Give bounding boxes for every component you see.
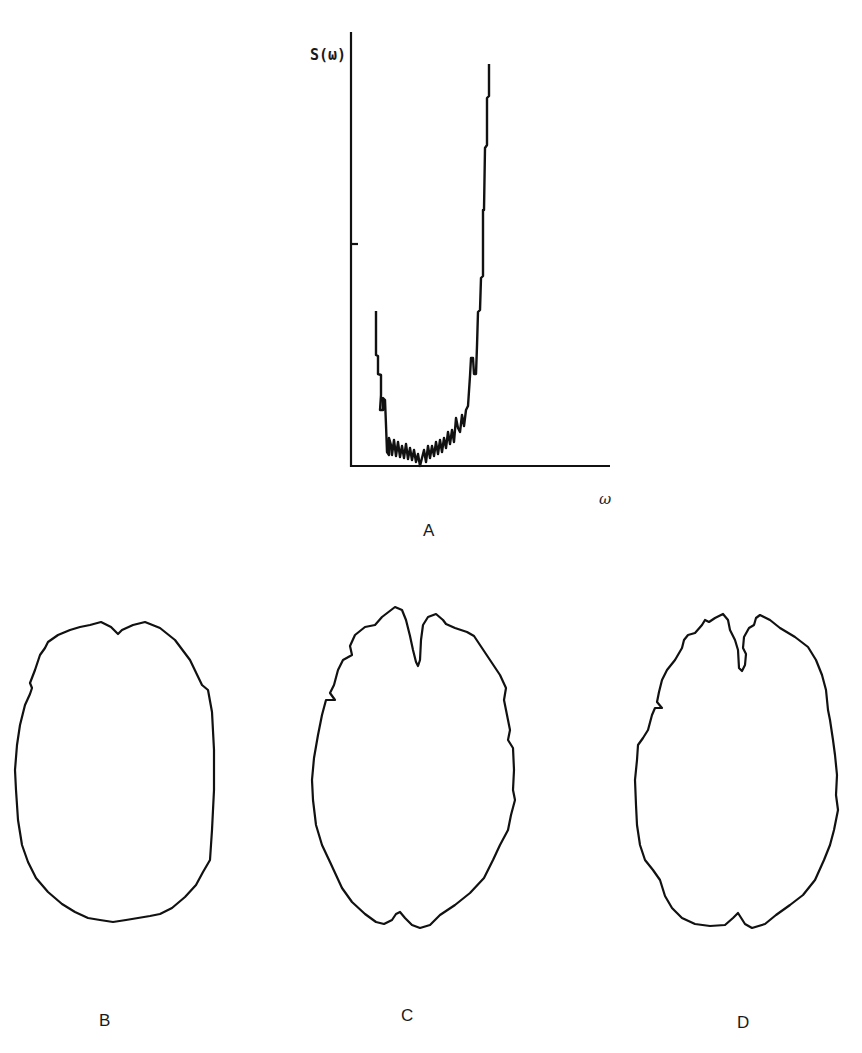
outline-c <box>312 607 515 928</box>
panel-label-b: B <box>99 1011 110 1031</box>
outline-b <box>15 622 214 922</box>
panel-label-c: C <box>401 1006 413 1026</box>
panel-a-plot <box>350 32 610 467</box>
outline-d <box>635 614 838 928</box>
x-axis-label: ω <box>599 490 611 508</box>
y-axis-label: S(ω) <box>310 46 346 64</box>
panel-label-d: D <box>737 1013 749 1033</box>
spectrum-curve <box>376 64 489 466</box>
panel-label-a: A <box>423 521 434 541</box>
